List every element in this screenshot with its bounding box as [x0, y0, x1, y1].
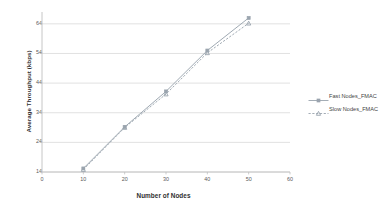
chart-container: Average Throughput (kbps) 142434445464 0…: [0, 0, 391, 213]
legend-item-2[interactable]: Slow Nodes_FMAC: [308, 102, 391, 115]
data-point-marker: [247, 21, 251, 25]
data-series-layer: [81, 16, 251, 171]
legend: Fast Nodes_FMACSlow Nodes_FMAC: [308, 89, 391, 115]
series-2: [81, 21, 251, 171]
legend-swatch-icon: [308, 104, 329, 113]
series-1: [82, 16, 250, 170]
legend-label: Fast Nodes_FMAC: [329, 93, 377, 99]
data-point-marker: [316, 111, 320, 115]
gridlines: [42, 24, 290, 172]
legend-label: Slow Nodes_FMAC: [329, 106, 378, 112]
series-line: [83, 23, 248, 169]
legend-swatch-icon: [308, 91, 329, 100]
data-point-marker: [247, 16, 250, 19]
data-point-marker: [317, 99, 320, 102]
legend-item-1[interactable]: Fast Nodes_FMAC: [308, 89, 391, 102]
